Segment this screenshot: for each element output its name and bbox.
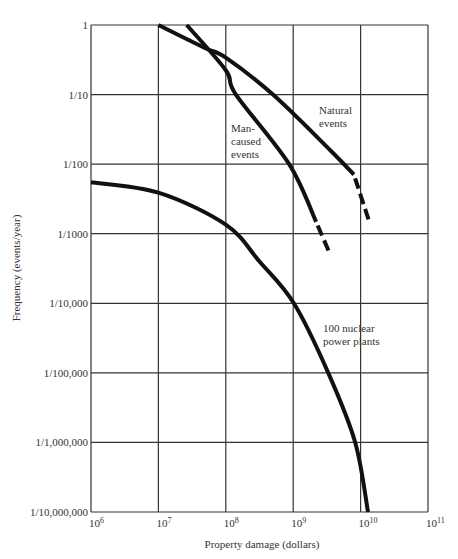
x-tick-labels: 10610710810910101011 xyxy=(89,516,445,529)
svg-text:Man-: Man- xyxy=(231,122,255,134)
curve-man-caused-events-dashed xyxy=(316,222,330,255)
y-tick-labels: 11/101/1001/10001/10,0001/100,0001/1,000… xyxy=(30,19,89,518)
y-tick-label: 1/10,000 xyxy=(49,297,88,309)
curve-100-nuclear-power-plants xyxy=(91,182,368,512)
curves xyxy=(91,25,370,512)
y-axis-title: Frequency (events/year) xyxy=(10,214,23,321)
svg-text:events: events xyxy=(319,117,347,129)
x-axis-title: Property damage (dollars) xyxy=(205,538,320,551)
x-tick-label: 109 xyxy=(291,516,306,529)
curve-natural-events-dashed xyxy=(354,175,370,224)
y-tick-label: 1/100,000 xyxy=(44,367,89,379)
svg-text:caused: caused xyxy=(231,135,261,147)
svg-text:events: events xyxy=(231,148,259,160)
label-nuclear-power-plants: 100 nuclear power plants xyxy=(323,322,380,347)
label-man-caused-events: Man- caused events xyxy=(231,122,261,160)
label-natural-events: Natural events xyxy=(319,104,352,129)
x-tick-label: 106 xyxy=(89,516,104,529)
grid xyxy=(91,25,428,512)
svg-text:power plants: power plants xyxy=(323,335,380,347)
svg-text:Natural: Natural xyxy=(319,104,352,116)
risk-chart: 11/101/1001/10001/10,0001/100,0001/1,000… xyxy=(0,0,458,559)
y-tick-label: 1/10,000,000 xyxy=(30,506,89,518)
x-tick-label: 1011 xyxy=(426,516,445,529)
svg-text:100 nuclear: 100 nuclear xyxy=(323,322,375,334)
y-tick-label: 1/10 xyxy=(68,89,88,101)
x-tick-label: 107 xyxy=(156,516,171,529)
y-tick-label: 1 xyxy=(83,19,89,31)
y-tick-label: 1/1,000,000 xyxy=(35,436,88,448)
y-tick-label: 1/100 xyxy=(63,158,89,170)
x-tick-label: 1010 xyxy=(359,516,378,529)
x-tick-label: 108 xyxy=(224,516,239,529)
y-tick-label: 1/1000 xyxy=(57,228,88,240)
